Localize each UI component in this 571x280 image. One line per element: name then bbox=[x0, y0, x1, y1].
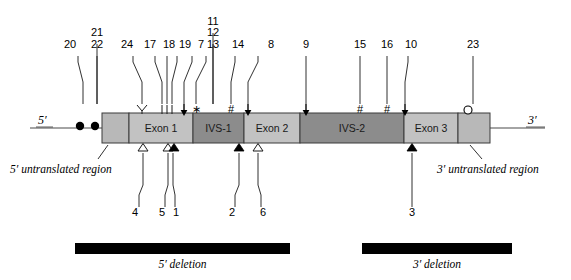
leader-line-13 bbox=[196, 56, 206, 104]
top-number-24: 24 bbox=[121, 38, 133, 50]
bottom-number-6: 6 bbox=[260, 206, 266, 218]
leader-line-14 bbox=[231, 56, 235, 104]
leader-line-24 bbox=[133, 56, 142, 104]
gene-segment-five-utr-block bbox=[102, 113, 129, 143]
segment-label-ivs-1: IVS-1 bbox=[205, 122, 231, 134]
bottom-number-labels: 451263 bbox=[132, 206, 415, 218]
gene-segment-three-utr-block bbox=[458, 113, 490, 143]
bottom-leader-1 bbox=[173, 153, 175, 207]
leader-line-17 bbox=[155, 56, 162, 104]
bottom-marker-glyphs bbox=[138, 144, 417, 152]
diagram-canvas: 5′3′ Exon 1IVS-1Exon 2IVS-2Exon 3 202122… bbox=[0, 0, 571, 280]
three-utr-caption: 3′ untranslated region bbox=[436, 163, 539, 176]
segment-label-exon-3: Exon 3 bbox=[415, 122, 448, 134]
bottom-number-4: 4 bbox=[132, 206, 138, 218]
leader-line-8 bbox=[248, 56, 258, 104]
triangle-open-6 bbox=[253, 144, 263, 152]
hash-16: # bbox=[384, 103, 391, 115]
triangle-filled-3 bbox=[407, 144, 417, 152]
deletion-label-five-deletion: 5′ deletion bbox=[158, 258, 206, 270]
five-utr-caption: 5′ untranslated region bbox=[10, 163, 112, 176]
bottom-leader-5 bbox=[165, 153, 168, 207]
triangle-open-4 bbox=[138, 144, 148, 152]
poly-a-circle bbox=[464, 106, 472, 114]
deletion-label-three-deletion: 3′ deletion bbox=[412, 258, 461, 270]
cap-dot-1 bbox=[76, 122, 84, 130]
top-number-18: 18 bbox=[163, 38, 175, 50]
hash-15: # bbox=[357, 103, 364, 115]
leader-line-20 bbox=[78, 56, 83, 104]
five-utr-pointer bbox=[98, 145, 108, 159]
segment-label-ivs-2: IVS-2 bbox=[339, 122, 365, 134]
deletion-bars: 5′ deletion3′ deletion bbox=[75, 243, 512, 270]
bottom-number-5: 5 bbox=[159, 206, 165, 218]
top-number-22: 22 bbox=[91, 38, 103, 50]
top-number-21: 21 bbox=[91, 26, 103, 38]
bottom-number-1: 1 bbox=[173, 206, 179, 218]
top-number-23: 23 bbox=[467, 38, 479, 50]
bottom-number-2: 2 bbox=[229, 206, 235, 218]
bottom-leader-4 bbox=[139, 153, 143, 207]
region-captions: 5′ untranslated region3′ untranslated re… bbox=[10, 145, 539, 176]
bottom-number-3: 3 bbox=[409, 206, 415, 218]
deletion-bar-five-deletion bbox=[75, 243, 290, 254]
top-number-9: 9 bbox=[303, 38, 309, 50]
top-number-20: 20 bbox=[64, 38, 76, 50]
gene-structure-diagram: 5′3′ Exon 1IVS-1Exon 2IVS-2Exon 3 202122… bbox=[0, 0, 571, 280]
five-prime-end-label: 5′ bbox=[38, 113, 47, 127]
top-number-14: 14 bbox=[232, 38, 244, 50]
top-number-8: 8 bbox=[268, 38, 274, 50]
top-number-13: 13 bbox=[207, 38, 219, 50]
hash-14: # bbox=[228, 103, 235, 115]
top-number-17: 17 bbox=[144, 38, 156, 50]
bottom-leader-lines bbox=[139, 153, 412, 207]
three-utr-pointer bbox=[470, 145, 482, 159]
top-number-12: 12 bbox=[207, 26, 219, 38]
segment-label-exon-2: Exon 2 bbox=[256, 122, 289, 134]
leader-line-19 bbox=[172, 56, 177, 104]
bottom-leader-6 bbox=[258, 153, 261, 207]
cap-dot-2 bbox=[91, 122, 99, 130]
asterisk-13: ∗ bbox=[192, 103, 201, 115]
triangle-filled-2 bbox=[234, 144, 244, 152]
segment-label-exon-1: Exon 1 bbox=[145, 122, 178, 134]
leader-line-7 bbox=[184, 56, 192, 104]
top-number-15: 15 bbox=[354, 38, 366, 50]
deletion-bar-three-deletion bbox=[362, 243, 512, 254]
top-number-19: 19 bbox=[179, 38, 191, 50]
top-number-16: 16 bbox=[381, 38, 393, 50]
bottom-leader-2 bbox=[235, 153, 239, 207]
three-prime-end-label: 3′ bbox=[527, 113, 537, 127]
top-number-labels: 202122241718197111213148915161023 bbox=[64, 15, 479, 50]
leader-line-10 bbox=[405, 56, 408, 104]
top-number-10: 10 bbox=[405, 38, 417, 50]
top-number-7: 7 bbox=[198, 38, 204, 50]
